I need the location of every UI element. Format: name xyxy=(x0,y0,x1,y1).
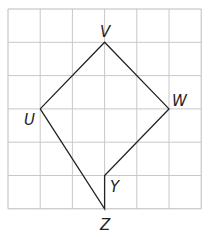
vertex-label-u: U xyxy=(24,111,35,129)
kite-diagram: VWUYZ xyxy=(0,0,212,237)
vertex-label-z: Z xyxy=(99,216,111,234)
vertex-label-y: Y xyxy=(110,178,121,196)
vertex-labels: VWUYZ xyxy=(24,23,188,234)
vertex-label-v: V xyxy=(100,23,112,41)
vertex-label-w: W xyxy=(172,92,188,110)
